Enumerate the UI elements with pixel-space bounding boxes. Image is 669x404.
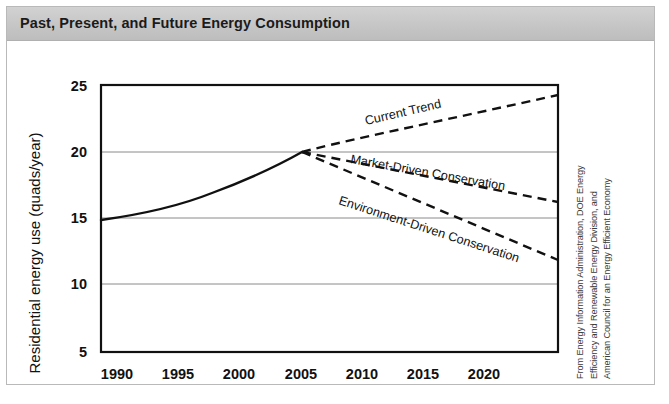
annotation-current-trend: Current Trend [364,97,443,128]
y-tick-label: 20 [71,144,87,160]
x-tick-label: 2015 [407,366,439,382]
energy-consumption-line-chart: Residential energy use (quads/year) 25 2… [7,41,656,385]
y-tick-label: 25 [71,78,87,94]
figure-container: Past, Present, and Future Energy Consump… [6,6,655,385]
x-tick-label: 1995 [162,366,194,382]
y-axis-tick-labels: 25 20 15 10 5 [71,78,87,360]
x-tick-label: 2020 [468,366,500,382]
figure-header-bar: Past, Present, and Future Energy Consump… [7,7,654,41]
x-tick-label: 2000 [223,366,255,382]
annotation-environment-driven-conservation: Environment-Driven Conservation [337,194,521,266]
y-axis-title: Residential energy use (quads/year) [26,133,43,374]
source-line-3: American Council for an Energy Efficient… [602,178,612,379]
source-line-2: Efficiency and Renewable Energy Division… [589,191,599,379]
x-tick-label: 2005 [285,366,317,382]
series-historical [101,152,302,220]
x-tick-label: 2010 [346,366,378,382]
x-tick-label: 1990 [101,366,133,382]
source-attribution: From Energy Information Administration, … [563,43,623,383]
y-tick-label: 5 [79,344,87,360]
annotation-market-driven-conservation: Market-Driven Conservation [349,152,506,193]
gridlines [101,152,558,284]
x-axis-tick-labels: 1990 1995 2000 2005 2010 2015 2020 [101,366,500,382]
figure-title: Past, Present, and Future Energy Consump… [20,15,350,31]
source-line-1: From Energy Information Administration, … [575,165,585,379]
y-tick-label: 15 [71,210,87,226]
chart-plot-area: Residential energy use (quads/year) 25 2… [7,41,656,385]
y-tick-label: 10 [71,276,87,292]
